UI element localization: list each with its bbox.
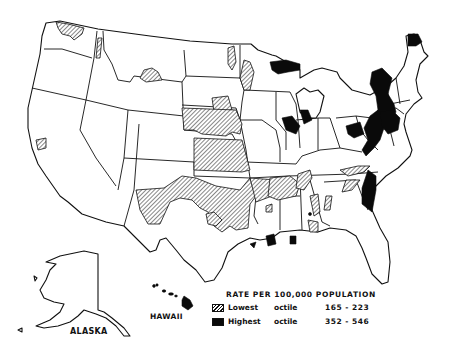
legend-item-name: Lowest	[228, 303, 258, 312]
hawaii-label: HAWAII	[150, 312, 183, 321]
legend-item-category: octile	[274, 303, 297, 312]
legend-item-range: 352 - 546	[325, 317, 369, 326]
legend-item-range: 165 - 223	[325, 303, 369, 312]
us-choropleth-map	[0, 0, 474, 354]
legend-item-category: octile	[274, 317, 297, 326]
hatched-swatch-icon	[212, 304, 224, 312]
hawaii-inset	[153, 284, 193, 310]
solid-swatch-icon	[212, 318, 224, 326]
alaska-label: ALASKA	[70, 327, 107, 336]
legend-item-name: Highest	[228, 317, 261, 326]
alaska-inset	[18, 251, 130, 336]
legend-title: RATE PER 100,000 POPULATION	[226, 290, 376, 299]
